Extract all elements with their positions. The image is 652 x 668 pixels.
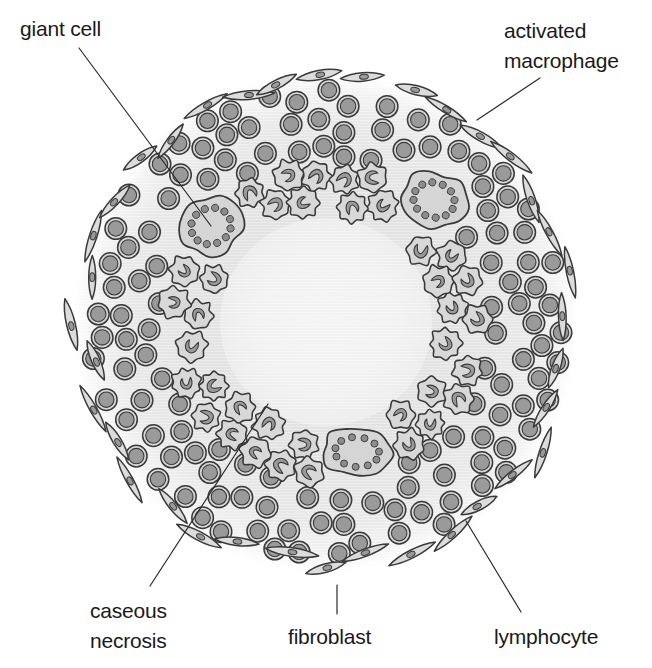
lymphocyte-cell xyxy=(114,358,136,380)
lymphocyte-cell xyxy=(247,520,269,542)
lymphocyte-cell xyxy=(158,188,180,210)
lymphocyte-cell xyxy=(384,499,406,521)
lymphocyte-cell xyxy=(171,421,193,443)
lymphocyte-cell xyxy=(372,119,394,141)
lymphocyte-cell xyxy=(215,149,237,171)
lymphocyte-cell xyxy=(197,168,219,190)
lymphocyte-cell xyxy=(509,293,531,315)
lymphocyte-cell xyxy=(397,477,419,499)
lymphocyte-cell xyxy=(126,445,148,467)
lymphocyte-cell xyxy=(88,303,110,325)
label-lymphocyte: lymphocyte xyxy=(494,622,598,651)
lymphocyte-cell xyxy=(185,442,207,464)
lymphocyte-cell xyxy=(471,452,493,474)
lymphocyte-cell xyxy=(143,425,165,447)
lymphocyte-cell xyxy=(256,496,278,518)
lymphocyte-cell xyxy=(147,469,169,491)
activated-macrophage-cell xyxy=(286,186,320,219)
lymphocyte-cell xyxy=(333,122,355,144)
lymphocyte-cell xyxy=(376,96,398,118)
lymphocyte-cell xyxy=(231,487,253,509)
lymphocyte-cell xyxy=(111,305,133,327)
fibroblast-cell xyxy=(89,255,96,299)
lymphocyte-cell xyxy=(280,114,302,136)
lymphocyte-cell xyxy=(135,344,157,366)
lymphocyte-cell xyxy=(472,427,494,449)
lymphocyte-cell xyxy=(393,139,415,161)
label-giant-cell-line-1: giant cell xyxy=(20,14,101,43)
label-lymphocyte-line-1: lymphocyte xyxy=(494,622,598,651)
label-caseous-necrosis: caseousnecrosis xyxy=(90,596,167,656)
lymphocyte-cell xyxy=(500,271,522,293)
lymphocyte-cell xyxy=(448,140,470,162)
lymphocyte-cell xyxy=(278,520,300,542)
lymphocyte-cell xyxy=(333,514,355,536)
lymphocyte-cell xyxy=(443,426,465,448)
lymphocyte-cell xyxy=(220,101,242,123)
lymphocyte-cell xyxy=(486,222,508,244)
lymphocyte-cell xyxy=(337,95,359,117)
lymphocyte-cell xyxy=(480,252,502,274)
label-fibroblast: fibroblast xyxy=(288,622,371,651)
lymphocyte-cell xyxy=(99,253,121,275)
caseous-necrosis-core xyxy=(220,218,432,426)
activated-macrophage-cell xyxy=(336,191,368,224)
lymphocyte-cell xyxy=(192,137,214,159)
lymphocyte-cell xyxy=(161,446,183,468)
lymphocyte-cell xyxy=(493,163,515,185)
lymphocyte-cell xyxy=(513,349,535,371)
lymphocyte-cell xyxy=(411,502,433,524)
lymphocyte-cell xyxy=(491,374,513,396)
lymphocyte-cell xyxy=(308,109,330,131)
lymphocyte-cell xyxy=(531,335,553,357)
lymphocyte-cell xyxy=(286,91,308,113)
lymphocyte-cell xyxy=(333,146,355,168)
lymphocyte-cell xyxy=(528,368,550,390)
label-activated-macrophage-line-1: activated xyxy=(504,16,619,46)
lymphocyte-cell xyxy=(330,489,352,511)
lymphocyte-cell xyxy=(440,491,462,513)
lymphocyte-cell xyxy=(408,109,430,131)
lymphocyte-cell xyxy=(388,522,410,544)
lymphocyte-cell xyxy=(419,136,441,158)
lymphocyte-cell xyxy=(318,79,340,101)
lymphocyte-cell xyxy=(472,176,494,198)
lymphocyte-cell xyxy=(497,186,519,208)
lymphocyte-cell xyxy=(489,404,511,426)
label-fibroblast-line-1: fibroblast xyxy=(288,622,371,651)
lymphocyte-cell xyxy=(199,462,221,484)
lymphocyte-cell xyxy=(514,222,536,244)
lymphocyte-cell xyxy=(472,475,494,497)
lymphocyte-cell xyxy=(477,200,499,222)
label-activated-macrophage: activatedmacrophage xyxy=(504,16,619,76)
lymphocyte-cell xyxy=(238,117,260,139)
lymphocyte-cell xyxy=(103,277,125,299)
lymphocyte-cell xyxy=(310,512,332,534)
activated-macrophage-cell xyxy=(198,371,229,401)
lymphocyte-cell xyxy=(208,486,230,508)
lymphocyte-cell xyxy=(289,141,311,163)
lymphocyte-cell xyxy=(131,389,153,411)
lymphocyte-cell xyxy=(539,294,561,316)
lymphocyte-cell xyxy=(434,464,456,486)
granuloma-diagram xyxy=(0,0,652,668)
lymphocyte-cell xyxy=(468,153,490,175)
lymphocyte-cell xyxy=(513,395,535,417)
lymphocyte-cell xyxy=(518,251,540,273)
label-giant-cell: giant cell xyxy=(20,14,101,43)
lymphocyte-cell xyxy=(118,237,140,259)
lymphocyte-cell xyxy=(175,486,197,508)
lymphocyte-cell xyxy=(139,221,161,243)
lymphocyte-cell xyxy=(255,143,277,165)
lymphocyte-cell xyxy=(313,135,335,157)
label-caseous-necrosis-line-2: necrosis xyxy=(90,626,167,656)
label-activated-macrophage-line-2: macrophage xyxy=(504,46,619,76)
lymphocyte-cell xyxy=(494,437,516,459)
lymphocyte-cell xyxy=(297,487,319,509)
lymphocyte-cell xyxy=(96,389,118,411)
lymphocyte-cell xyxy=(129,270,151,292)
lymphocyte-cell xyxy=(116,329,138,351)
lymphocyte-cell xyxy=(116,409,138,431)
lymphocyte-cell xyxy=(523,312,545,334)
lymphocyte-cell xyxy=(151,368,173,390)
